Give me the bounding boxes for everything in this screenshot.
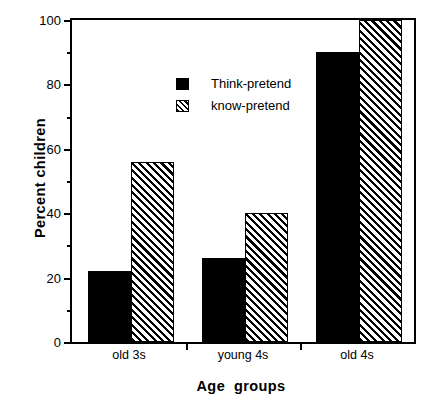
y-tick-mark (67, 310, 72, 312)
y-tick-label: 80 (47, 77, 61, 92)
y-tick-mark (67, 52, 72, 54)
y-tick-label: 100 (39, 13, 61, 28)
legend-label: know-pretend (211, 98, 290, 113)
y-tick-mark (64, 278, 72, 280)
y-tick-label: 40 (47, 206, 61, 221)
bar-young-4s-think-pretend (202, 258, 245, 342)
y-tick-mark (64, 213, 72, 215)
y-axis-title: Percent children (32, 78, 48, 278)
y-tick-mark (67, 245, 72, 247)
bar-chart-figure: Percent children Age groups 020406080100… (0, 0, 441, 405)
legend-label: Think-pretend (211, 76, 291, 91)
bar-old-3s-know-pretend (131, 162, 174, 342)
hatched-swatch (176, 100, 189, 112)
solid-black-swatch (176, 78, 189, 90)
y-tick-mark (64, 342, 72, 344)
y-tick-label: 20 (47, 270, 61, 285)
x-tick-label-young-4s: young 4s (218, 348, 269, 362)
bar-old-4s-think-pretend (316, 52, 359, 342)
y-tick-label: 60 (47, 141, 61, 156)
x-tick-label-old-4s: old 4s (340, 348, 373, 362)
x-tick-mark (300, 342, 302, 350)
x-tick-label-old-3s: old 3s (112, 348, 145, 362)
y-tick-mark (64, 149, 72, 151)
y-tick-mark (67, 117, 72, 119)
plot-area: 020406080100 Think-pretendknow-pretend (70, 18, 416, 344)
bar-young-4s-know-pretend (245, 213, 288, 342)
y-tick-mark (64, 84, 72, 86)
chart-legend: Think-pretendknow-pretend (176, 76, 291, 113)
y-tick-label: 0 (54, 335, 61, 350)
bar-old-3s-think-pretend (88, 271, 131, 342)
y-tick-mark (67, 181, 72, 183)
x-tick-mark (186, 342, 188, 350)
legend-item-2: know-pretend (176, 98, 291, 113)
y-tick-mark (64, 20, 72, 22)
bar-old-4s-know-pretend (359, 20, 402, 342)
legend-item-1: Think-pretend (176, 76, 291, 91)
x-axis-title: Age groups (70, 378, 412, 394)
